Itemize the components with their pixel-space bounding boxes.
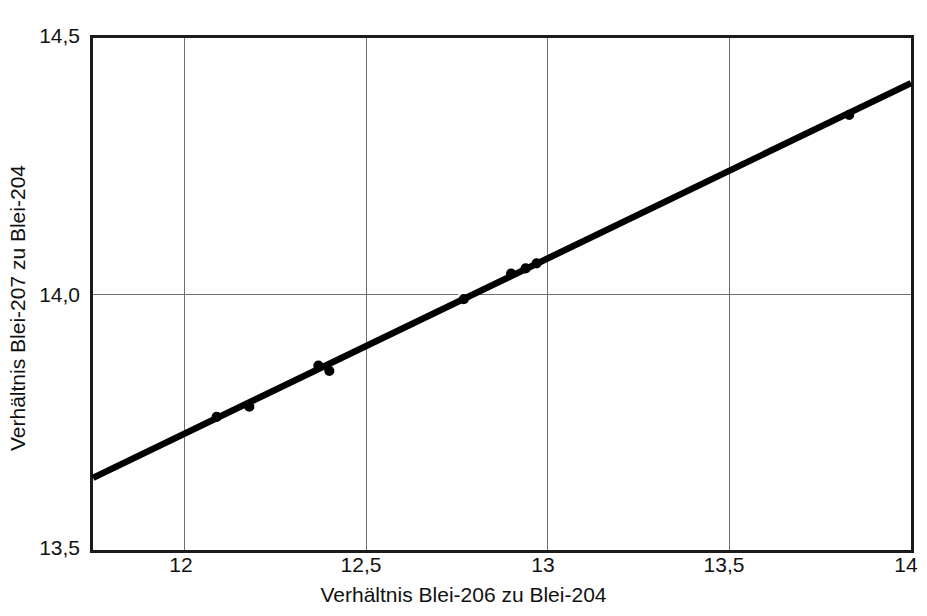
x-tick-label-13: 13 (531, 554, 554, 575)
data-point (519, 262, 531, 274)
y-tick-label-13-5: 13,5 (39, 537, 80, 558)
data-point (243, 400, 255, 412)
y-axis-title: Verhältnis Blei-207 zu Blei-204 (7, 165, 28, 451)
data-point (505, 267, 517, 279)
data-point (323, 365, 335, 377)
x-tick-label-12: 12 (169, 554, 192, 575)
data-point (530, 257, 542, 269)
regression-line (93, 83, 911, 478)
gridline-horizontal (93, 294, 911, 295)
x-tick-label-12-5: 12,5 (341, 554, 382, 575)
x-tick-label-13-5: 13,5 (704, 554, 745, 575)
y-axis-title-wrapper: Verhältnis Blei-207 zu Blei-204 (0, 0, 34, 616)
y-tick-label-14-0: 14,0 (39, 284, 80, 305)
x-tick-label-14: 14 (894, 554, 917, 575)
chart-root: Verhältnis Blei-207 zu Blei-204 14,5 14,… (0, 0, 927, 616)
data-point (210, 411, 222, 423)
x-axis-title: Verhältnis Blei-206 zu Blei-204 (0, 583, 927, 607)
y-tick-label-14-5: 14,5 (39, 25, 80, 46)
data-point (312, 359, 324, 371)
data-point (843, 109, 855, 121)
scatter-series (210, 109, 855, 423)
plot-area (90, 35, 914, 553)
